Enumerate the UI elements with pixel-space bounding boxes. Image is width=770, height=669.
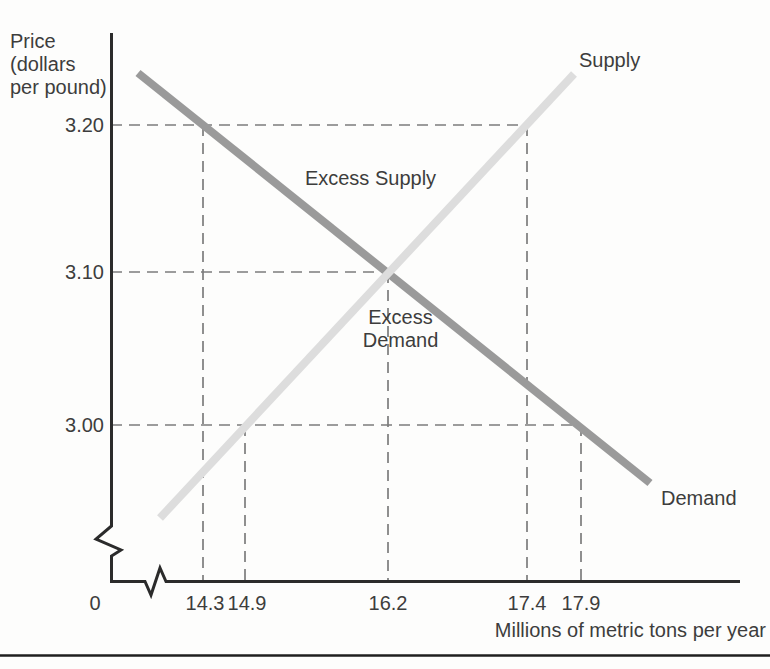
- y-axis-title-line2: (dollars: [10, 53, 107, 76]
- demand-label: Demand: [661, 487, 737, 510]
- excess-demand-line2: Demand: [328, 329, 473, 352]
- excess-demand-line1: Excess: [328, 306, 473, 329]
- x-axis-title: Millions of metric tons per year: [466, 619, 766, 642]
- y-axis-title: Price (dollars per pound): [10, 30, 107, 99]
- supply-demand-figure: Price (dollars per pound) 3.20 3.10 3.00…: [0, 0, 770, 669]
- y-tick-3-20: 3.20: [42, 114, 104, 137]
- x-tick-16-2: 16.2: [360, 592, 416, 615]
- dashed-guides: [111, 125, 581, 581]
- excess-supply-annotation: Excess Supply: [288, 167, 453, 190]
- origin-label: 0: [84, 592, 106, 615]
- x-tick-17-4: 17.4: [499, 592, 555, 615]
- demand-line: [138, 73, 650, 483]
- y-tick-3-00: 3.00: [42, 414, 104, 437]
- y-axis-title-line3: per pound): [10, 76, 107, 99]
- x-tick-14-9: 14.9: [219, 592, 275, 615]
- excess-demand-annotation: Excess Demand: [328, 306, 473, 352]
- y-axis-title-line1: Price: [10, 30, 107, 53]
- supply-label: Supply: [579, 49, 640, 72]
- x-tick-17-9: 17.9: [553, 592, 609, 615]
- y-tick-3-10: 3.10: [42, 261, 104, 284]
